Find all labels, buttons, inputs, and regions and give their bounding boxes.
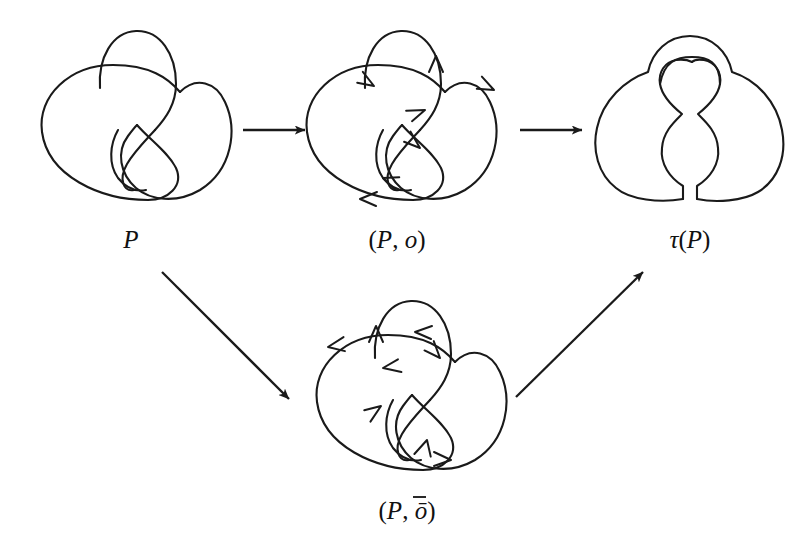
orientation-arrow-o-4 — [405, 102, 426, 121]
knot-P-outer-loop — [41, 65, 180, 200]
orientation-arrow-obar-3 — [327, 337, 346, 354]
knot-tauP-inner-left — [660, 60, 692, 199]
knot-Pobar-right-lobe — [396, 353, 506, 469]
orientation-arrow-obar-8 — [434, 452, 451, 466]
knot-diagram-tau-P: τ(P) — [595, 36, 783, 254]
map-arrows — [162, 130, 643, 399]
caption-P: P — [122, 226, 138, 253]
orientation-arrow-obar-5 — [382, 359, 402, 377]
knot-diagram-P: P — [41, 31, 231, 253]
knot-Po-right-lobe — [386, 83, 496, 199]
knot-P-right-lobe — [121, 83, 231, 199]
arrow-P-to-Pobar — [162, 272, 289, 399]
orientation-arrow-o-3 — [477, 76, 497, 93]
knot-Po-top-loop — [365, 31, 441, 130]
orientation-arrow-obar-7 — [412, 440, 432, 461]
orientation-arrow-o-1 — [357, 71, 377, 88]
knot-commutative-diagram: P (P, o) — [0, 0, 809, 546]
knot-P-top-loop — [100, 31, 176, 130]
caption-tau-P: τ(P) — [670, 226, 711, 254]
orientation-arrow-obar-6 — [364, 403, 385, 422]
knot-Pobar-top-loop — [375, 301, 451, 400]
knot-tauP-inner-right — [692, 60, 720, 199]
orientation-arrow-obar-2 — [415, 326, 432, 339]
knot-Po-outer-loop — [306, 65, 445, 200]
orientation-arrowheads-o — [357, 56, 496, 206]
caption-P-o: (P, o) — [369, 226, 426, 254]
orientation-arrow-o-2 — [429, 56, 443, 72]
orientation-arrow-o-5 — [404, 131, 425, 150]
knot-diagram-P-o: (P, o) — [306, 31, 496, 254]
knot-diagram-P-obar: (P, ō) — [316, 301, 506, 525]
caption-P-obar: (P, ō) — [379, 497, 436, 525]
arrow-Pobar-to-tauP — [516, 272, 643, 397]
